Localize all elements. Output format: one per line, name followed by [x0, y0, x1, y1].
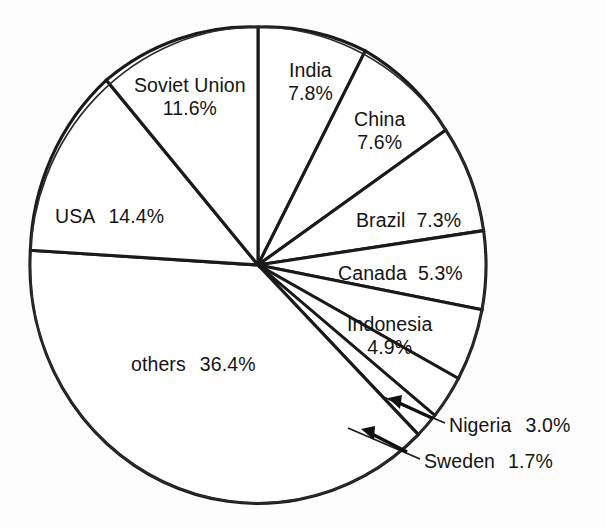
pie-label-india-value: 7.8% [288, 82, 333, 105]
pie-label-others-value: 36.4% [200, 353, 256, 375]
pie-label-others-name: others [131, 353, 186, 375]
pie-label-canada-name: Canada [338, 262, 407, 284]
pie-label-sweden-name: Sweden [424, 450, 495, 472]
pie-label-nigeria-name: Nigeria [449, 414, 511, 436]
pie-label-china-value: 7.6% [354, 131, 405, 154]
pie-label-soviet-union-value: 11.6% [134, 97, 246, 120]
pie-label-nigeria: Nigeria3.0% [449, 414, 570, 437]
pie-label-soviet-union: Soviet Union 11.6% [134, 74, 246, 119]
pie-label-brazil-value: 7.3% [416, 209, 461, 231]
pie-label-china-name: China [354, 108, 405, 130]
pie-label-usa: USA14.4% [55, 205, 164, 228]
pie-label-canada-value: 5.3% [418, 262, 463, 284]
pie-label-soviet-union-name: Soviet Union [134, 74, 246, 96]
pie-label-sweden-value: 1.7% [508, 450, 553, 472]
pie-label-indonesia-name: Indonesia [347, 313, 432, 335]
pie-label-usa-value: 14.4% [108, 205, 164, 227]
pie-label-brazil: Brazil7.3% [356, 209, 461, 232]
pie-label-sweden: Sweden1.7% [424, 450, 553, 473]
pie-label-china: China 7.6% [354, 108, 405, 153]
pie-label-others: others36.4% [131, 353, 256, 376]
pie-label-indonesia-value: 4.9% [347, 336, 432, 359]
pie-label-indonesia: Indonesia 4.9% [347, 313, 432, 358]
pie-label-india-name: India [289, 59, 332, 81]
pie-label-canada: Canada5.3% [338, 262, 463, 285]
pie-chart: Soviet Union 11.6% India 7.8% China 7.6%… [0, 0, 605, 528]
pie-label-brazil-name: Brazil [356, 209, 405, 231]
pie-label-india: India 7.8% [288, 59, 333, 104]
pie-label-nigeria-value: 3.0% [525, 414, 570, 436]
pie-label-usa-name: USA [55, 205, 95, 227]
